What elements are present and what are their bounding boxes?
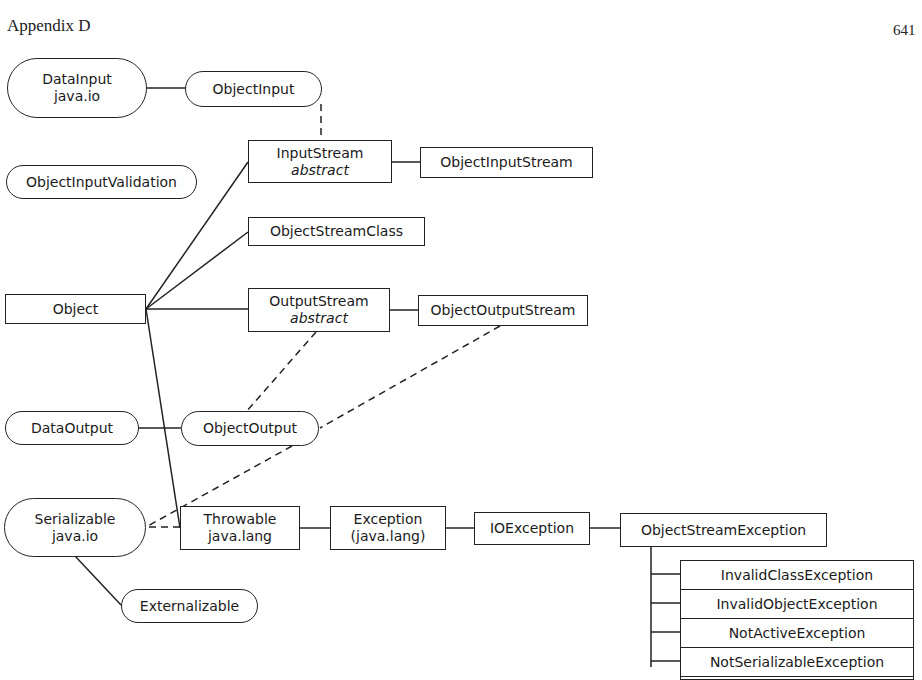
node-object: Object bbox=[5, 294, 146, 324]
node-modifier: abstract bbox=[291, 162, 349, 179]
node-name: ObjectInputStream bbox=[440, 154, 573, 171]
node-objectstreamclass: ObjectStreamClass bbox=[248, 217, 425, 246]
objectstreamexception-subclass-stack: InvalidClassException InvalidObjectExcep… bbox=[680, 560, 914, 680]
node-name: Externalizable bbox=[140, 598, 239, 615]
node-externalizable: Externalizable bbox=[121, 589, 258, 623]
edge-object-objectstreamclass bbox=[146, 232, 248, 309]
node-objectinputstream: ObjectInputStream bbox=[420, 147, 593, 178]
node-throwable: Throwable java.lang bbox=[180, 506, 300, 550]
node-objectoutput: ObjectOutput bbox=[181, 411, 319, 446]
node-name: ObjectStreamException bbox=[641, 522, 806, 539]
node-name: ObjectStreamClass bbox=[270, 223, 403, 240]
node-name: DataInput bbox=[42, 71, 112, 88]
node-dataoutput: DataOutput bbox=[5, 411, 139, 445]
node-modifier: abstract bbox=[290, 310, 348, 327]
node-name: InputStream bbox=[277, 145, 364, 162]
node-package: java.lang bbox=[208, 528, 272, 545]
node-name: ObjectOutput bbox=[203, 420, 297, 437]
edge-object-throwable bbox=[146, 309, 180, 528]
node-package: java.io bbox=[54, 88, 100, 105]
subclass-notactiveexception: NotActiveException bbox=[681, 619, 913, 648]
edge-objectoutputstream-objectoutput bbox=[320, 326, 500, 428]
node-objectoutputstream: ObjectOutputStream bbox=[418, 295, 588, 326]
node-name: OutputStream bbox=[269, 293, 368, 310]
node-name: Exception bbox=[354, 511, 423, 528]
node-exception: Exception (java.lang) bbox=[330, 506, 446, 550]
node-objectinputvalidation: ObjectInputValidation bbox=[6, 165, 197, 199]
edge-serializable-externalizable bbox=[75, 556, 121, 605]
subclass-invalidclassexception: InvalidClassException bbox=[681, 561, 913, 590]
subclass-invalidobjectexception: InvalidObjectException bbox=[681, 590, 913, 619]
node-name: IOException bbox=[490, 520, 574, 537]
node-ioexception: IOException bbox=[474, 512, 590, 545]
node-name: Object bbox=[53, 301, 99, 318]
node-inputstream: InputStream abstract bbox=[248, 140, 392, 183]
node-datainput: DataInput java.io bbox=[7, 58, 147, 118]
node-outputstream: OutputStream abstract bbox=[248, 288, 390, 332]
node-package: java.io bbox=[52, 528, 98, 545]
node-name: ObjectOutputStream bbox=[431, 302, 576, 319]
node-name: Serializable bbox=[35, 511, 116, 528]
node-name: ObjectInputValidation bbox=[26, 174, 177, 191]
node-name: Throwable bbox=[204, 511, 277, 528]
node-serializable: Serializable java.io bbox=[4, 498, 146, 557]
node-objectstreamexception: ObjectStreamException bbox=[620, 513, 827, 547]
edge-outputstream-objectoutput bbox=[246, 332, 316, 412]
node-package: (java.lang) bbox=[351, 528, 426, 545]
node-name: ObjectInput bbox=[213, 81, 295, 98]
node-name: DataOutput bbox=[31, 420, 113, 437]
subclass-notserializableexception: NotSerializableException bbox=[681, 648, 913, 677]
node-objectinput: ObjectInput bbox=[185, 71, 322, 107]
